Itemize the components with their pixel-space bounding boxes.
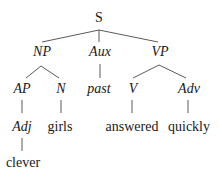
edge-np-ap bbox=[26, 66, 41, 78]
node-vp: VP bbox=[151, 45, 168, 59]
edge-s-np bbox=[42, 30, 99, 42]
node-adj: Adj bbox=[12, 120, 31, 134]
node-ap: AP bbox=[13, 82, 30, 96]
node-s: S bbox=[95, 11, 103, 25]
node-past: past bbox=[87, 82, 110, 96]
node-aux: Aux bbox=[89, 45, 111, 59]
leaf-answered: answered bbox=[106, 120, 159, 134]
syntax-tree-diagram: S NP Aux VP AP N past V Adv Adj girls an… bbox=[0, 0, 222, 179]
node-n: N bbox=[56, 82, 65, 96]
leaf-clever: clever bbox=[6, 156, 40, 170]
leaf-quickly: quickly bbox=[168, 120, 210, 134]
node-adv: Adv bbox=[178, 82, 200, 96]
edge-np-n bbox=[41, 66, 59, 78]
edge-vp-v bbox=[133, 65, 159, 78]
node-np: NP bbox=[33, 45, 51, 59]
leaf-girls: girls bbox=[48, 120, 73, 134]
edge-vp-adv bbox=[159, 65, 186, 78]
edge-s-vp bbox=[99, 30, 158, 42]
node-v: V bbox=[129, 82, 138, 96]
